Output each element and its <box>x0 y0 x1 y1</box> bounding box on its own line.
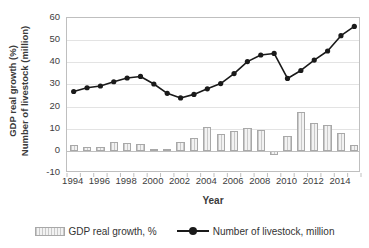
x-axis-tick-label: 2012 <box>303 175 324 186</box>
data-point-marker <box>338 33 343 38</box>
legend-item-gdp: GDP real growth, % <box>35 226 157 237</box>
data-point-marker <box>111 79 116 84</box>
y-axis-title-line-2: Number of livestock (million) <box>19 26 31 156</box>
line-series-layer <box>67 18 359 171</box>
data-point-marker <box>231 71 236 76</box>
data-point-marker <box>285 76 290 81</box>
data-point-marker <box>151 81 156 86</box>
data-point-marker <box>352 24 357 29</box>
x-axis-tick-label: 2004 <box>196 175 217 186</box>
y-axis-tick-label: 10 <box>34 123 60 133</box>
legend-label-gdp: GDP real growth, % <box>69 226 157 237</box>
data-point-marker <box>71 89 76 94</box>
y-axis-tick-label: 0 <box>34 145 60 155</box>
data-point-marker <box>178 95 183 100</box>
livestock-line <box>74 26 355 98</box>
legend-label-livestock: Number of livestock, million <box>213 226 335 237</box>
data-point-marker <box>218 81 223 86</box>
chart-container: GDP real growth (%) Number of livestock … <box>0 0 369 248</box>
data-point-marker <box>258 52 263 57</box>
data-point-marker <box>205 86 210 91</box>
data-point-marker <box>312 57 317 62</box>
data-point-marker <box>84 85 89 90</box>
data-point-marker <box>138 74 143 79</box>
x-axis-tick-labels: 1994199619982000200220042006200820102012… <box>66 175 360 189</box>
data-point-marker <box>272 51 277 56</box>
chart-legend: GDP real growth, % Number of livestock, … <box>0 221 369 241</box>
legend-item-livestock: Number of livestock, million <box>177 226 335 237</box>
x-axis-tick-label: 2000 <box>142 175 163 186</box>
x-axis-tick-label: 1998 <box>116 175 137 186</box>
x-axis-tick-label: 1996 <box>89 175 110 186</box>
y-axis-tick-label: 20 <box>34 101 60 111</box>
x-axis-tick-label: 2002 <box>169 175 190 186</box>
y-axis-tick-label: 50 <box>34 34 60 44</box>
data-point-marker <box>298 68 303 73</box>
data-point-marker <box>325 48 330 53</box>
y-axis-tick-label: 60 <box>34 12 60 22</box>
bar-swatch-icon <box>35 227 65 236</box>
x-axis-tick-label: 2006 <box>222 175 243 186</box>
x-axis-title: Year <box>66 195 360 206</box>
y-axis-tick-label: -10 <box>34 167 60 177</box>
y-axis-tick-label: 30 <box>34 78 60 88</box>
line-series-svg <box>67 18 361 173</box>
x-axis-tick-label: 2008 <box>249 175 270 186</box>
data-point-marker <box>245 59 250 64</box>
y-axis-tick-label: 40 <box>34 56 60 66</box>
data-point-marker <box>98 83 103 88</box>
data-point-marker <box>165 91 170 96</box>
data-point-marker <box>125 75 130 80</box>
data-point-marker <box>191 92 196 97</box>
y-axis-tick-labels: -100102030405060 <box>34 0 60 248</box>
y-axis-title: GDP real growth (%) Number of livestock … <box>2 0 36 182</box>
line-marker-swatch-icon <box>177 226 209 236</box>
x-axis-tick-label: 1994 <box>62 175 83 186</box>
y-axis-title-line-1: GDP real growth (%) <box>7 26 19 156</box>
plot-area <box>66 17 360 172</box>
x-axis-tick-label: 2010 <box>276 175 297 186</box>
x-axis-tick-label: 2014 <box>329 175 350 186</box>
